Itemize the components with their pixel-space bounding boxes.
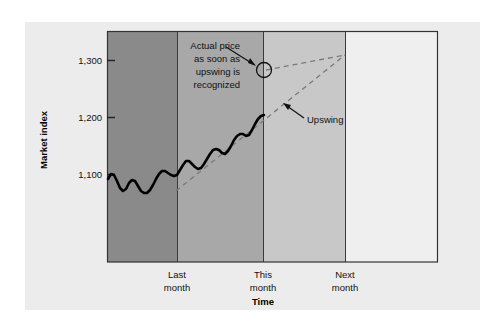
x-label-this-month-line-2: month [250,282,276,293]
ytick-label-1100: 1,100 [78,169,102,180]
x-label-next-month-line-1: Next [335,269,355,280]
x-label-last-month-line-1: Last [168,269,186,280]
actual-price-annotation-line-1: Actual price [190,40,240,51]
band-after-next-month [345,31,438,262]
x-label-last-month-line-2: month [164,282,190,293]
y-axis-title: Market index [38,110,49,169]
x-label-next-month-line-2: month [332,282,358,293]
figure-root: 1,300 1,200 1,100 Market index Actual pr… [0,0,504,329]
band-last-month-prior [107,31,177,262]
ytick-label-1200: 1,200 [78,112,102,123]
x-label-this-month-line-1: This [254,269,272,280]
x-category-labels: Last month This month Next month [164,269,358,293]
ytick-label-1300: 1,300 [78,55,102,66]
market-index-chart: 1,300 1,200 1,100 Market index Actual pr… [0,0,504,329]
actual-price-annotation-line-3: upswing is [196,66,241,77]
x-axis-title: Time [252,296,274,307]
actual-price-annotation-line-4: recognized [194,79,240,90]
actual-price-annotation-line-2: as soon as [194,53,240,64]
time-bands [107,31,438,262]
upswing-annotation-label: Upswing [307,114,343,125]
